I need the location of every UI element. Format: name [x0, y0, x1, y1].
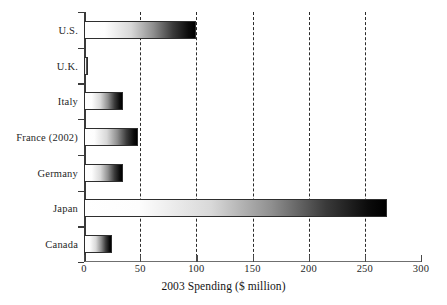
x-tick-50 — [140, 255, 141, 262]
x-tick-label-100: 100 — [188, 263, 204, 274]
x-tick-300 — [421, 255, 422, 262]
x-tick-200 — [309, 255, 310, 262]
x-tick-150 — [253, 255, 254, 262]
x-tick-label-50: 50 — [135, 263, 146, 274]
category-label-1: U.K. — [57, 60, 78, 71]
x-tick-100 — [196, 255, 197, 262]
bar-chart-figure: 2003 Spending ($ million) U.S.U.K.ItalyF… — [0, 0, 447, 305]
x-tick-label-250: 250 — [357, 263, 373, 274]
y-tick-3 — [78, 155, 84, 156]
y-tick-0 — [78, 48, 84, 49]
x-tick-label-0: 0 — [81, 263, 86, 274]
x-tick-250 — [365, 255, 366, 262]
gridline-250 — [365, 12, 366, 262]
gridline-50 — [140, 12, 141, 262]
x-tick-label-150: 150 — [244, 263, 260, 274]
category-label-2: Italy — [58, 96, 78, 107]
gridline-200 — [309, 12, 310, 262]
bar-canada — [84, 235, 112, 253]
y-tick-top — [78, 12, 84, 13]
category-label-6: Canada — [45, 239, 78, 250]
gridline-100 — [196, 12, 197, 262]
category-label-3: France (2002) — [16, 132, 78, 143]
x-tick-label-300: 300 — [413, 263, 429, 274]
bar-u-s — [84, 21, 196, 39]
x-axis-title: 2003 Spending ($ million) — [0, 280, 447, 292]
x-tick-0 — [84, 255, 85, 262]
category-label-0: U.S. — [59, 24, 78, 35]
y-tick-4 — [78, 191, 84, 192]
category-label-4: Germany — [38, 167, 78, 178]
y-tick-2 — [78, 119, 84, 120]
gridline-150 — [253, 12, 254, 262]
bar-japan — [84, 199, 387, 217]
y-tick-5 — [78, 226, 84, 227]
bar-italy — [84, 92, 123, 110]
bar-germany — [84, 164, 123, 182]
bar-france-2002 — [84, 128, 138, 146]
bar-u-k — [84, 57, 88, 75]
x-tick-label-200: 200 — [300, 263, 316, 274]
category-label-5: Japan — [53, 203, 78, 214]
y-tick-1 — [78, 83, 84, 84]
